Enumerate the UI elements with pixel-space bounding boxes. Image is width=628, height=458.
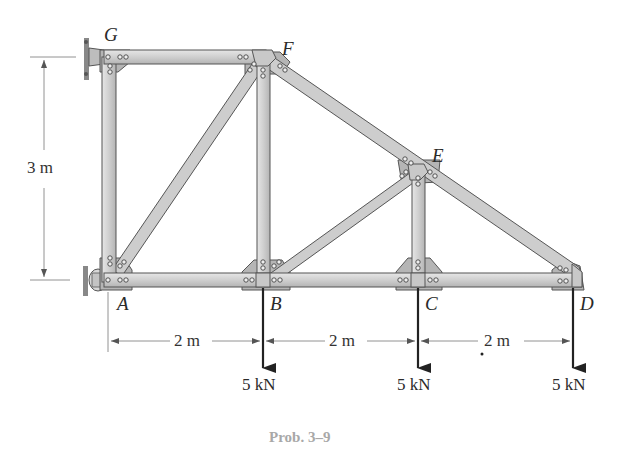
node-label-g: G: [104, 24, 118, 46]
load-label-d: 5 kN: [552, 375, 586, 395]
truss-diagram: [0, 0, 628, 458]
node-label-c: C: [425, 293, 438, 315]
member-af: [112, 64, 262, 276]
member-abcd: [104, 273, 582, 287]
node-label-e: E: [432, 145, 444, 167]
node-label-a: A: [117, 293, 129, 315]
load-label-b: 5 kN: [242, 375, 276, 395]
gusset-plates: [100, 50, 584, 290]
figure-caption: Prob. 3–9: [269, 429, 330, 446]
node-label-b: B: [270, 293, 282, 315]
node-label-f: F: [282, 38, 294, 60]
member-ga: [102, 57, 116, 282]
dimension-span-ab: 2 m: [171, 331, 203, 351]
node-label-d: D: [580, 293, 594, 315]
bolts: [106, 55, 568, 283]
dimension-span-bc: 2 m: [326, 331, 358, 351]
load-arrows: [263, 288, 573, 368]
member-fb: [257, 60, 270, 282]
dimension-span-cd: 2 m: [481, 331, 513, 351]
member-be: [264, 170, 420, 286]
stray-dot: [481, 353, 484, 356]
load-label-c: 5 kN: [397, 375, 431, 395]
truss-members: [102, 50, 582, 287]
dimension-height: 3 m: [24, 158, 56, 178]
